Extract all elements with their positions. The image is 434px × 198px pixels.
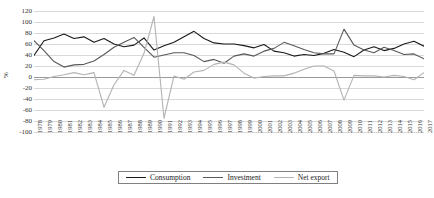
x-tick-1986: 1986 (117, 120, 124, 133)
x-tick-1990: 1990 (157, 120, 164, 133)
x-tick-2017: 2017 (427, 120, 434, 133)
x-tick-1984: 1984 (97, 120, 104, 133)
legend-item-investment[interactable]: Investment (203, 173, 260, 182)
x-tick-1980: 1980 (57, 120, 64, 133)
legend-swatch-net-export (274, 177, 294, 178)
y-axis-tick-labels: 120100806040200-20-40-60-80-100 (8, 0, 32, 198)
x-tick-2005: 2005 (307, 120, 314, 133)
x-tick-1995: 1995 (207, 120, 214, 133)
legend-item-net-export[interactable]: Net export (274, 173, 330, 182)
x-tick-2014: 2014 (397, 120, 404, 133)
x-tick-1993: 1993 (187, 120, 194, 133)
y-tick-40: 40 (10, 52, 32, 59)
y-tick-20: 20 (10, 63, 32, 70)
x-tick-1983: 1983 (87, 120, 94, 133)
x-tick-1997: 1997 (227, 120, 234, 133)
legend-label-consumption: Consumption (150, 173, 190, 182)
legend-swatch-investment (203, 177, 223, 178)
y-tick--40: -40 (10, 96, 32, 103)
x-tick-2004: 2004 (297, 120, 304, 133)
x-tick-1998: 1998 (237, 120, 244, 133)
x-tick-1994: 1994 (197, 120, 204, 133)
x-tick-2001: 2001 (267, 120, 274, 133)
series-line-investment (34, 29, 424, 67)
x-tick-2013: 2013 (387, 120, 394, 133)
x-tick-1991: 1991 (167, 120, 174, 133)
x-tick-1985: 1985 (107, 120, 114, 133)
x-tick-1999: 1999 (247, 120, 254, 133)
x-tick-1989: 1989 (147, 120, 154, 133)
x-tick-1978: 1978 (37, 120, 44, 133)
x-tick-2006: 2006 (317, 120, 324, 133)
legend-swatch-consumption (126, 177, 146, 178)
y-tick-100: 100 (10, 19, 32, 26)
x-tick-2000: 2000 (257, 120, 264, 133)
x-tick-2011: 2011 (367, 120, 374, 133)
y-tick-0: 0 (10, 74, 32, 81)
series-line-consumption (34, 31, 424, 56)
x-tick-2012: 2012 (377, 120, 384, 133)
y-tick-80: 80 (10, 30, 32, 37)
x-tick-2010: 2010 (357, 120, 364, 133)
line-chart: % 120100806040200-20-40-60-80-100 197819… (0, 0, 434, 198)
x-axis-tick-labels: 1978197919801981198219831984198519861987… (34, 133, 424, 163)
x-tick-1996: 1996 (217, 120, 224, 133)
legend-item-consumption[interactable]: Consumption (126, 173, 190, 182)
x-tick-2003: 2003 (287, 120, 294, 133)
x-tick-2016: 2016 (417, 120, 424, 133)
series-line-net-export (34, 17, 424, 119)
y-tick--80: -80 (10, 118, 32, 125)
x-tick-1979: 1979 (47, 120, 54, 133)
x-tick-2009: 2009 (347, 120, 354, 133)
y-tick-120: 120 (10, 8, 32, 15)
x-tick-1981: 1981 (67, 120, 74, 133)
y-tick-60: 60 (10, 41, 32, 48)
x-tick-2002: 2002 (277, 120, 284, 133)
x-tick-2007: 2007 (327, 120, 334, 133)
x-tick-1982: 1982 (77, 120, 84, 133)
legend: Consumption Investment Net export (118, 171, 338, 184)
x-tick-1988: 1988 (137, 120, 144, 133)
legend-label-investment: Investment (227, 173, 260, 182)
y-tick--100: -100 (10, 129, 32, 136)
series-layer (34, 11, 424, 132)
x-tick-1987: 1987 (127, 120, 134, 133)
legend-label-net-export: Net export (298, 173, 330, 182)
x-tick-2008: 2008 (337, 120, 344, 133)
y-tick--20: -20 (10, 85, 32, 92)
y-tick--60: -60 (10, 107, 32, 114)
plot-area (34, 11, 424, 132)
x-tick-2015: 2015 (407, 120, 414, 133)
x-tick-1992: 1992 (177, 120, 184, 133)
